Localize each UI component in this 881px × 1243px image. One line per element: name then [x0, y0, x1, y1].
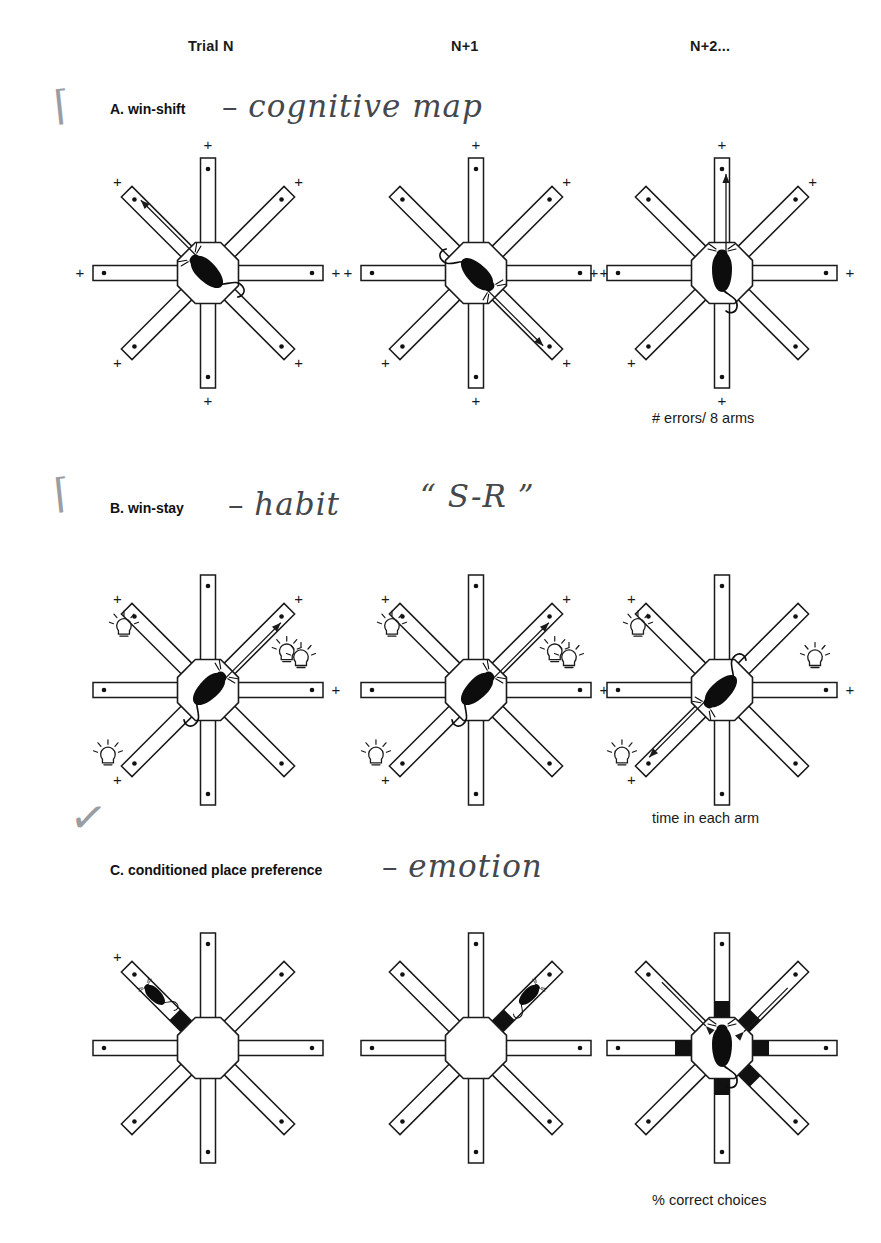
radial-arm-maze — [467, 793, 881, 1243]
reward-plus-marker: + — [718, 136, 727, 153]
food-well-dot — [824, 271, 829, 276]
maze-arm-sw — [635, 1062, 708, 1135]
food-well-dot — [720, 942, 725, 947]
reward-plus-marker: + — [204, 392, 213, 409]
maze-arm-nw: + — [109, 590, 194, 676]
reward-plus-marker: + — [718, 392, 727, 409]
maze-arm-w — [93, 683, 181, 698]
food-well-dot — [102, 688, 107, 693]
maze-arm-w: + — [590, 264, 695, 281]
food-well-dot — [793, 972, 798, 977]
reward-plus-marker: + — [627, 771, 636, 788]
maze-arm-sw: + — [627, 287, 708, 372]
reward-plus-marker: + — [113, 771, 122, 788]
food-well-dot — [616, 271, 621, 276]
reward-plus-marker: + — [381, 354, 390, 371]
food-well-dot — [132, 972, 137, 977]
food-well-dot — [206, 584, 211, 589]
food-well-dot — [400, 761, 405, 766]
maze-arm-w: + — [344, 264, 449, 281]
reward-plus-marker: + — [381, 771, 390, 788]
maze-arm-nw: + — [377, 590, 462, 676]
maze-arm-se — [736, 287, 809, 360]
food-well-dot — [646, 761, 651, 766]
maze-arm-w: + — [76, 264, 181, 281]
reward-plus-marker: + — [808, 173, 817, 190]
maze-arm-s — [715, 717, 730, 805]
maze-arm-e — [749, 1041, 837, 1056]
food-well-dot — [646, 344, 651, 349]
reward-plus-marker: + — [113, 354, 122, 371]
maze-arm-nw — [389, 961, 462, 1034]
maze-arm-n — [715, 933, 730, 1021]
reward-plus-marker: + — [204, 136, 213, 153]
reward-plus-marker: + — [344, 264, 353, 281]
maze-arm-n — [201, 575, 216, 663]
food-well-dot — [370, 1046, 375, 1051]
maze-arm-n: + — [201, 136, 216, 246]
food-well-dot — [646, 1119, 651, 1124]
maze-arm-sw: + — [361, 704, 462, 789]
food-well-dot — [824, 1046, 829, 1051]
light-bulb-icon — [801, 643, 830, 668]
maze-arm-sw: + — [381, 287, 462, 372]
maze-arm-w — [607, 1041, 695, 1056]
maze-arm-nw — [635, 961, 708, 1034]
maze-arm-sw: + — [113, 287, 194, 372]
food-well-dot — [370, 688, 375, 693]
food-well-dot — [400, 197, 405, 202]
food-well-dot — [720, 167, 725, 172]
maze-arm-n — [201, 933, 216, 1021]
maze-arm-n — [715, 575, 730, 663]
maze-arm-sw — [389, 1062, 462, 1135]
food-well-dot — [646, 972, 651, 977]
reward-plus-marker: + — [113, 173, 122, 190]
food-well-dot — [400, 344, 405, 349]
food-well-dot — [720, 584, 725, 589]
maze-arm-s — [715, 1075, 730, 1163]
reward-plus-marker: + — [76, 264, 85, 281]
food-well-dot — [720, 1150, 725, 1155]
maze-arm-s — [201, 717, 216, 805]
food-well-dot — [793, 344, 798, 349]
reward-plus-marker: + — [846, 264, 855, 281]
figure-page: Trial N N+1 N+2... ⌈ A. win-shift – cogn… — [0, 0, 881, 1243]
choice-arrow-nw — [662, 982, 715, 1035]
maze-arm-e: + — [749, 264, 855, 281]
maze-arm-sw — [121, 1062, 194, 1135]
food-well-dot — [793, 761, 798, 766]
maze-arm-w — [93, 1041, 181, 1056]
food-well-dot — [370, 271, 375, 276]
food-well-dot — [132, 197, 137, 202]
food-well-dot — [400, 1119, 405, 1124]
food-well-dot — [646, 197, 651, 202]
maze-arm-ne — [736, 961, 809, 1034]
reward-plus-marker: + — [846, 681, 855, 698]
maze-arm-nw — [635, 186, 708, 259]
food-well-dot — [793, 1119, 798, 1124]
food-well-dot — [132, 344, 137, 349]
reward-plus-marker: + — [113, 948, 122, 965]
food-well-dot — [616, 688, 621, 693]
maze-arm-s: + — [715, 300, 730, 409]
maze-arm-w — [607, 683, 695, 698]
maze-arm-nw: + — [623, 590, 708, 676]
food-well-dot — [793, 614, 798, 619]
food-well-dot — [400, 972, 405, 977]
food-well-dot — [132, 1119, 137, 1124]
food-well-dot — [102, 271, 107, 276]
reward-plus-marker: + — [381, 590, 390, 607]
maze-arm-ne: + — [736, 173, 817, 259]
maze-arm-se — [736, 704, 809, 777]
maze-arm-nw — [389, 186, 462, 259]
maze-arm-se — [736, 1062, 809, 1135]
maze-arm-nw: + — [113, 173, 194, 259]
maze-arm-w — [361, 683, 449, 698]
food-well-dot — [206, 942, 211, 947]
reward-plus-marker: + — [590, 264, 599, 281]
light-bulb-icon — [361, 740, 390, 765]
food-well-dot — [102, 1046, 107, 1051]
maze-arm-s: + — [201, 300, 216, 409]
food-well-dot — [206, 167, 211, 172]
maze-arm-w — [361, 1041, 449, 1056]
